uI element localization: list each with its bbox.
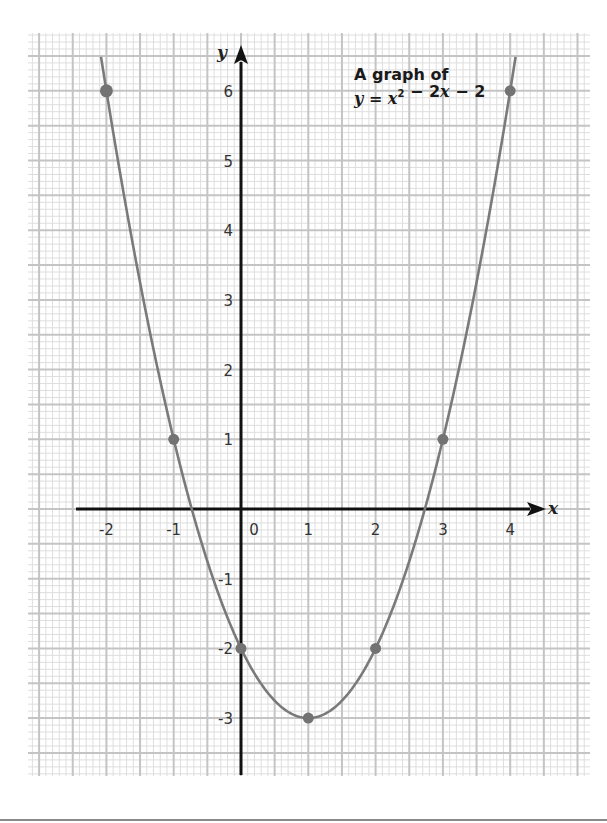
x-tick-label: 0	[249, 521, 259, 539]
y-tick-label: -3	[218, 710, 233, 728]
data-point	[437, 434, 448, 445]
x-axis-label: x	[547, 498, 559, 518]
data-point	[303, 713, 314, 724]
x-tick-label: 3	[438, 521, 448, 539]
x-tick-label: -2	[99, 521, 114, 539]
data-point	[505, 85, 516, 96]
graph-paper-plot: -2-101234 654321-1-2-3 x y A graph of y …	[0, 0, 607, 823]
chart: -2-101234 654321-1-2-3 x y A graph of y …	[0, 0, 607, 823]
x-tick-label: -1	[166, 521, 181, 539]
x-tick-label: 4	[505, 521, 515, 539]
y-tick-label: 2	[223, 362, 233, 380]
y-axis-label: y	[216, 42, 228, 62]
y-tick-label: 6	[223, 83, 233, 101]
grid-major-lines	[28, 33, 590, 776]
data-point	[168, 434, 179, 445]
chart-equation: y = x2 − 2x − 2	[353, 82, 485, 108]
page-bottom-rule	[0, 819, 607, 821]
y-tick-label: 1	[223, 431, 233, 449]
y-tick-label: -2	[218, 640, 233, 658]
x-tick-label: 2	[371, 521, 381, 539]
y-tick-label: 3	[223, 292, 233, 310]
y-tick-label: 4	[223, 222, 233, 240]
data-point	[370, 643, 381, 654]
y-tick-label: 5	[223, 153, 233, 171]
data-point	[236, 643, 247, 654]
data-point	[100, 84, 113, 97]
x-tick-label: 1	[304, 521, 314, 539]
y-tick-label: -1	[218, 571, 233, 589]
